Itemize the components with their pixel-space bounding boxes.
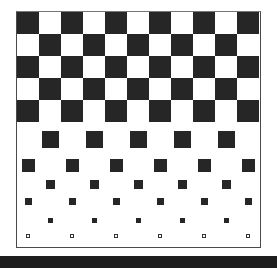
shrinking-square bbox=[69, 198, 76, 205]
checker-square bbox=[193, 12, 215, 34]
shrinking-square bbox=[174, 131, 191, 148]
shrinking-square bbox=[134, 180, 143, 189]
checker-square bbox=[83, 34, 105, 56]
checker-square bbox=[237, 56, 259, 78]
checker-square bbox=[105, 56, 127, 78]
shrinking-square bbox=[42, 131, 59, 148]
hollow-square bbox=[246, 234, 250, 238]
shrinking-square bbox=[242, 159, 255, 172]
shrinking-square bbox=[46, 180, 55, 189]
shrinking-square bbox=[22, 159, 35, 172]
checker-square bbox=[149, 12, 171, 34]
checker-square bbox=[17, 56, 39, 78]
shrinking-square bbox=[113, 198, 120, 205]
checker-square bbox=[237, 12, 259, 34]
bottom-bar bbox=[0, 256, 277, 268]
checker-square bbox=[61, 12, 83, 34]
shrinking-square bbox=[92, 218, 97, 223]
hollow-square bbox=[114, 234, 118, 238]
checker-square bbox=[171, 34, 193, 56]
checker-square bbox=[61, 56, 83, 78]
checker-square bbox=[39, 34, 61, 56]
shrinking-square bbox=[25, 198, 32, 205]
shrinking-square bbox=[245, 198, 252, 205]
shrinking-square bbox=[66, 159, 79, 172]
checker-square bbox=[127, 34, 149, 56]
checker-square bbox=[193, 56, 215, 78]
shrinking-square bbox=[198, 159, 211, 172]
shrinking-square bbox=[154, 159, 167, 172]
shrinking-square bbox=[201, 198, 208, 205]
shrinking-square bbox=[90, 180, 99, 189]
checker-square bbox=[39, 78, 61, 100]
shrinking-square bbox=[157, 198, 164, 205]
checker-square bbox=[17, 100, 39, 122]
shrinking-square bbox=[136, 218, 141, 223]
hollow-square bbox=[158, 234, 162, 238]
shrinking-square bbox=[48, 218, 53, 223]
shrinking-square bbox=[222, 180, 231, 189]
hollow-square bbox=[70, 234, 74, 238]
shrinking-square bbox=[178, 180, 187, 189]
hollow-square bbox=[202, 234, 206, 238]
shrinking-square bbox=[180, 218, 185, 223]
checker-square bbox=[215, 34, 237, 56]
shrinking-square bbox=[218, 131, 235, 148]
checkerboard-figure bbox=[16, 11, 261, 248]
checker-square bbox=[149, 56, 171, 78]
shrinking-square bbox=[86, 131, 103, 148]
checker-square bbox=[105, 12, 127, 34]
checker-square bbox=[215, 78, 237, 100]
checker-square bbox=[127, 78, 149, 100]
hollow-square bbox=[26, 234, 30, 238]
shrinking-square bbox=[224, 218, 229, 223]
checker-square bbox=[193, 100, 215, 122]
checker-square bbox=[149, 100, 171, 122]
checker-square bbox=[83, 78, 105, 100]
shrinking-square bbox=[110, 159, 123, 172]
checker-square bbox=[17, 12, 39, 34]
checker-square bbox=[237, 100, 259, 122]
checker-square bbox=[171, 78, 193, 100]
shrinking-square bbox=[130, 131, 147, 148]
checker-square bbox=[61, 100, 83, 122]
checker-square bbox=[105, 100, 127, 122]
